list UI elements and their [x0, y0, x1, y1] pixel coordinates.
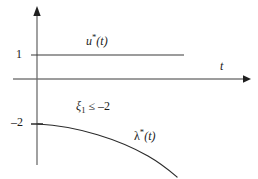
time-axis-arrow-icon [243, 75, 251, 83]
u-star-label: u*(t) [86, 33, 108, 47]
time-axis [13, 75, 251, 83]
optimal-control-figure: u*(t) λ*(t) t ξ1 ≤ –2 1 –2 [0, 0, 258, 179]
xi-relation-text: ≤ –2 [88, 99, 110, 113]
figure-canvas [0, 0, 258, 179]
value-axis-arrow-icon [33, 6, 40, 16]
lambda-star-label: λ*(t) [134, 128, 155, 142]
lambda-star-argument: (t) [144, 129, 155, 143]
time-axis-label: t [220, 60, 223, 72]
u-star-argument: (t) [96, 34, 107, 48]
lambda-star-curve [38, 124, 177, 177]
y-tick-label-1: 1 [16, 48, 22, 60]
y-tick-label-neg2: –2 [11, 116, 23, 128]
value-axis [33, 6, 40, 165]
xi-condition-label: ξ1 ≤ –2 [76, 100, 110, 115]
